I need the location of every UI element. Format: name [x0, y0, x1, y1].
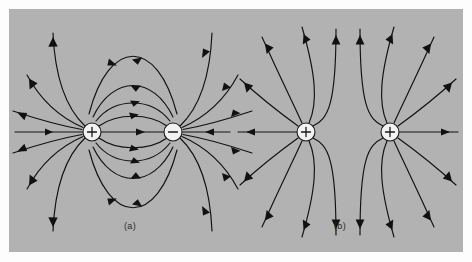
panel-b-caption: (b): [310, 221, 370, 231]
charge-positive-a: [83, 123, 101, 141]
panel-a-field-diagram: [9, 9, 236, 252]
field-line-group-axis-b: [238, 128, 458, 135]
field-line-group-inner-upper-a: [89, 56, 177, 126]
field-line-group-outer-lower-left-a: [13, 135, 85, 232]
field-line-group-inner-lower-a: [89, 138, 177, 208]
field-line-group-outer-upper-left-a: [13, 33, 85, 130]
panel-b-like-charges: [236, 9, 463, 252]
field-line-group-axis-a: [15, 128, 230, 135]
charge-positive-b-right: [381, 123, 399, 141]
figure-electric-field-lines: (a) (b): [0, 0, 472, 262]
panel-a-dipole: [9, 9, 236, 252]
panel-a-caption: (a): [100, 221, 160, 231]
charge-negative-a: [164, 123, 182, 141]
charge-positive-b-left: [297, 123, 315, 141]
panel-b-field-diagram: [236, 9, 463, 252]
